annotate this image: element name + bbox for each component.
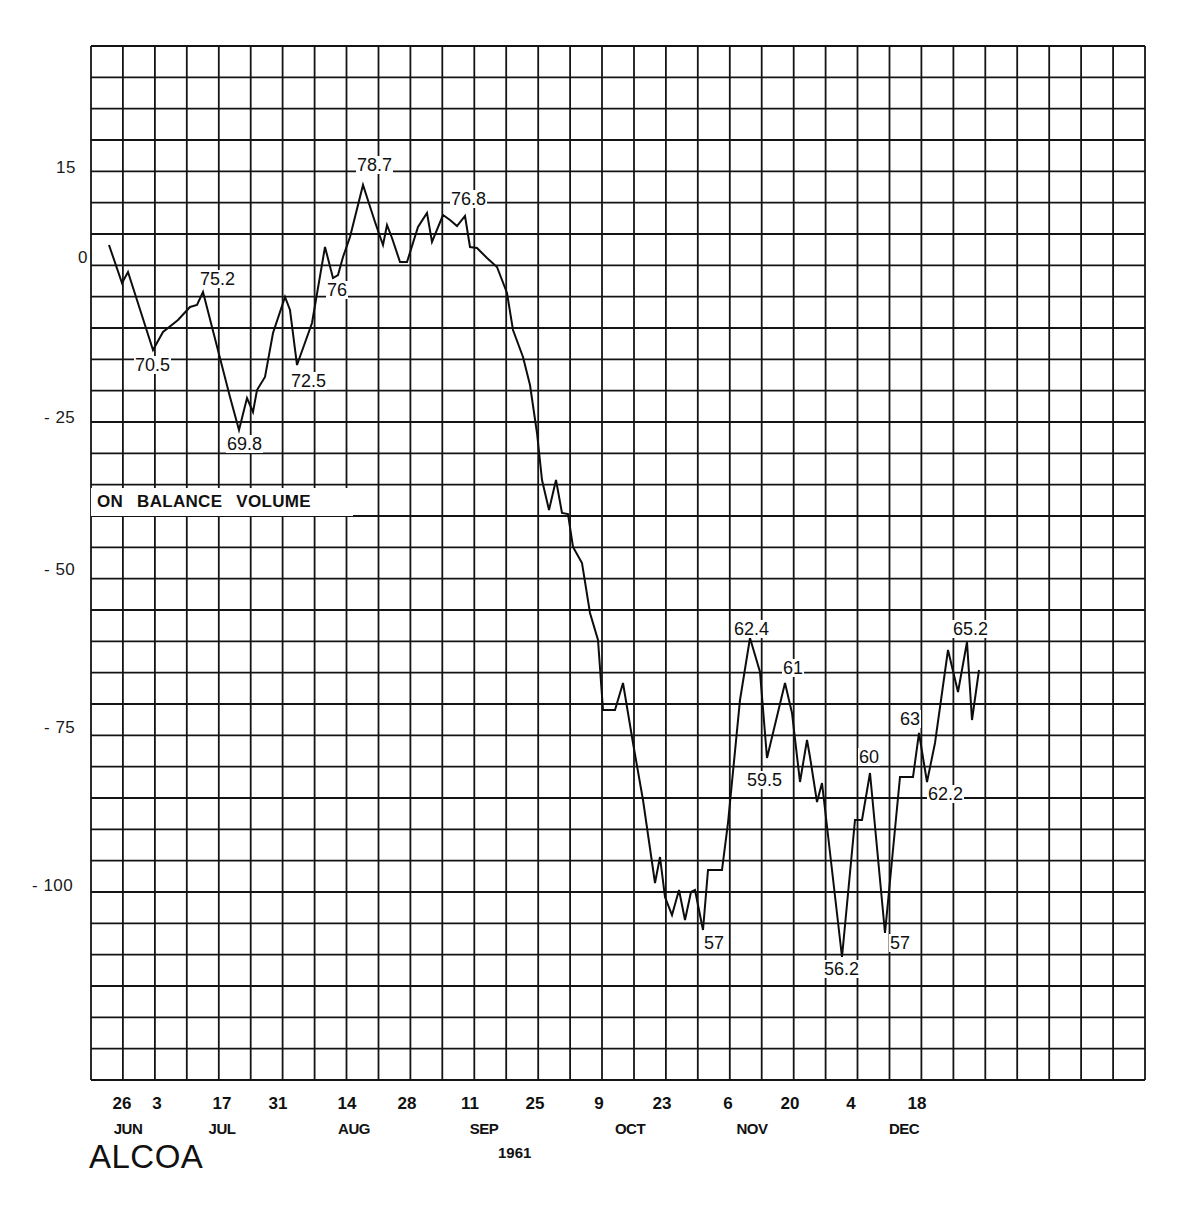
x-tick-day: 20 xyxy=(781,1094,800,1114)
x-tick-day: 25 xyxy=(526,1094,545,1114)
price-annotation: 69.8 xyxy=(226,435,263,453)
x-tick-day: 18 xyxy=(908,1094,927,1114)
x-month-label: DEC xyxy=(889,1120,919,1137)
year-label: 1961 xyxy=(498,1144,531,1161)
x-month-label: OCT xyxy=(615,1120,645,1137)
x-month-label: AUG xyxy=(338,1120,370,1137)
x-tick-day: 17 xyxy=(213,1094,232,1114)
x-tick-day: 26 xyxy=(113,1094,132,1114)
x-tick-day: 14 xyxy=(338,1094,357,1114)
price-annotation: 57 xyxy=(889,934,911,952)
x-month-label: JUL xyxy=(209,1120,236,1137)
y-tick-label: - 25 xyxy=(44,408,75,428)
price-annotation: 65.2 xyxy=(952,620,989,638)
x-tick-day: 9 xyxy=(594,1094,603,1114)
price-annotation: 70.5 xyxy=(134,356,171,374)
cropped-caption-fragment xyxy=(540,1203,680,1210)
grid xyxy=(91,46,1145,1080)
price-annotation: 59.5 xyxy=(746,771,783,789)
x-tick-day: 11 xyxy=(461,1094,479,1114)
chart-title-ticker: ALCOA xyxy=(89,1138,203,1176)
x-month-label: SEP xyxy=(470,1120,499,1137)
price-annotation: 76.8 xyxy=(450,190,487,208)
x-tick-day: 23 xyxy=(653,1094,672,1114)
obv-line-series xyxy=(109,185,979,957)
chart-grid-and-line xyxy=(0,0,1183,1210)
price-annotation: 75.2 xyxy=(199,270,236,288)
x-tick-day: 4 xyxy=(846,1094,855,1114)
x-tick-day: 31 xyxy=(269,1094,288,1114)
y-tick-label: 15 xyxy=(56,158,76,178)
x-month-label: JUN xyxy=(114,1120,143,1137)
price-annotation: 61 xyxy=(782,659,804,677)
price-annotation: 62.2 xyxy=(927,785,964,803)
x-tick-day: 28 xyxy=(398,1094,417,1114)
price-annotation: 62.4 xyxy=(733,620,770,638)
y-tick-label: - 75 xyxy=(44,718,75,738)
price-annotation: 56.2 xyxy=(823,960,860,978)
x-tick-day: 3 xyxy=(152,1094,161,1114)
price-annotation: 72.5 xyxy=(290,372,327,390)
x-tick-day: 6 xyxy=(723,1094,732,1114)
price-annotation: 78.7 xyxy=(356,156,393,174)
y-tick-label: 0 xyxy=(78,248,88,268)
price-annotation: 60 xyxy=(858,748,880,766)
price-annotation: 57 xyxy=(703,934,725,952)
chart-subtitle: ON BALANCE VOLUME xyxy=(97,492,311,512)
x-month-label: NOV xyxy=(736,1120,767,1137)
price-annotation: 76 xyxy=(326,281,348,299)
price-annotation: 63 xyxy=(899,710,921,728)
y-tick-label: - 100 xyxy=(32,876,73,896)
y-tick-label: - 50 xyxy=(44,560,75,580)
